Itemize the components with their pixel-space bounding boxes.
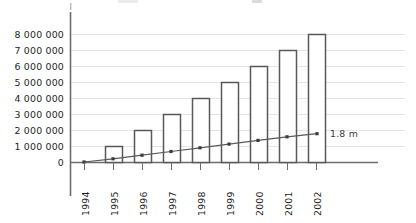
x-tick-label: 1994	[80, 191, 91, 216]
y-tick-label: 8 000 000	[14, 29, 64, 40]
line-marker	[285, 135, 288, 138]
y-tick-label: 4 000 000	[14, 93, 64, 104]
line-marker	[111, 157, 114, 160]
x-tick-labels: 1994 1995 1996 1997 1998 1999 2000 2001 …	[80, 191, 323, 216]
x-tick-label: 1997	[167, 191, 178, 216]
bar-chart: 8 000 000 7 000 000 6 000 000 5 000 000 …	[0, 0, 416, 223]
line-marker	[227, 143, 230, 146]
bar-1996[interactable]	[135, 131, 152, 163]
y-tick-label: 2 000 000	[14, 125, 64, 136]
line-marker	[140, 154, 143, 157]
y-tick-label: 0	[58, 157, 64, 168]
bar-2000[interactable]	[251, 67, 268, 163]
line-end-annotation: 1.8 m	[330, 128, 358, 139]
y-tick-label: 5 000 000	[14, 77, 64, 88]
line-marker	[169, 150, 172, 153]
x-tick-label: 2002	[312, 191, 323, 216]
y-tick-label: 3 000 000	[14, 109, 64, 120]
line-marker	[315, 132, 318, 135]
x-tick-label: 2000	[254, 191, 265, 216]
x-tick-label: 2001	[283, 191, 294, 216]
x-tick-label: 1998	[196, 191, 207, 216]
x-tick-label: 1999	[225, 191, 236, 216]
bar-1999[interactable]	[222, 83, 239, 163]
y-tick-labels: 8 000 000 7 000 000 6 000 000 5 000 000 …	[14, 29, 64, 168]
bar-2002[interactable]	[309, 35, 326, 163]
x-tick-label: 1996	[138, 191, 149, 216]
line-marker	[256, 139, 259, 142]
line-marker	[198, 146, 201, 149]
y-tick-label: 7 000 000	[14, 45, 64, 56]
x-tick-label: 1995	[109, 191, 120, 216]
y-tick-label: 1 000 000	[14, 141, 64, 152]
chart-container: 8 000 000 7 000 000 6 000 000 5 000 000 …	[0, 0, 416, 223]
y-tick-label: 6 000 000	[14, 61, 64, 72]
bar-1997[interactable]	[164, 115, 181, 163]
bar-1998[interactable]	[193, 99, 210, 163]
bar-2001[interactable]	[280, 51, 297, 163]
